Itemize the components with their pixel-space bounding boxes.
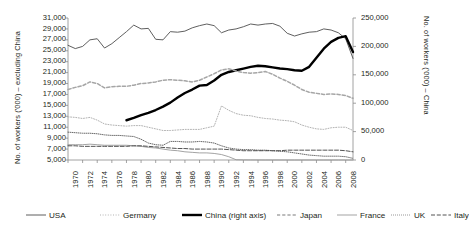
legend-item-uk[interactable]: UK (391, 210, 425, 220)
legend-item-usa[interactable]: USA (26, 210, 66, 220)
legend-swatch-italy (431, 210, 451, 220)
legend-swatch-france (337, 210, 357, 220)
legend-label: France (360, 211, 385, 220)
legend-item-japan[interactable]: Japan (277, 210, 322, 220)
legend-swatch-usa (26, 210, 46, 220)
legend-item-china[interactable]: China (right axis) (182, 210, 266, 220)
legend-label: Italy (454, 211, 469, 220)
series-line-china (126, 36, 353, 120)
legend-swatch-japan (277, 210, 297, 220)
series-line-germany (68, 106, 353, 131)
legend-swatch-uk (391, 210, 411, 220)
series-line-italy (68, 146, 353, 152)
chart-legend: USAGermanyChina (right axis)JapanFranceU… (0, 206, 445, 226)
legend-item-germany[interactable]: Germany (100, 210, 156, 220)
legend-label: UK (414, 211, 425, 220)
legend-swatch-germany (100, 210, 120, 220)
legend-swatch-china (182, 210, 202, 220)
legend-label: Germany (123, 211, 156, 220)
legend-label: USA (49, 211, 66, 220)
legend-item-italy[interactable]: Italy (431, 210, 469, 220)
legend-label: China (right axis) (205, 211, 266, 220)
legend-item-france[interactable]: France (337, 210, 385, 220)
series-line-usa (68, 23, 353, 58)
legend-label: Japan (300, 211, 322, 220)
